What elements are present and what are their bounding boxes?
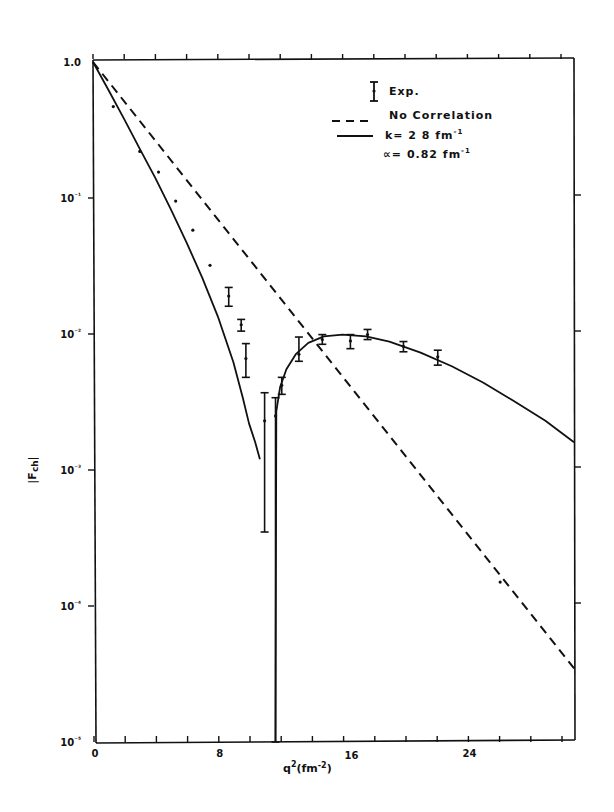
data-point [244, 357, 247, 360]
data-point [366, 333, 369, 336]
no-correlation-dashed-line [93, 62, 577, 671]
data-point [297, 353, 300, 356]
data-point [349, 339, 352, 342]
legend-k-label: k= 2 8 fm-1 [385, 128, 463, 142]
svg-text:q2(fm-2): q2(fm-2) [283, 760, 332, 775]
experimental-points [112, 105, 502, 742]
data-point [436, 355, 439, 358]
x-axis-title: q2(fm-2) [283, 760, 332, 775]
bottom-axis [96, 740, 575, 743]
y-tick-label: 10⁻⁵ [60, 736, 81, 748]
legend-exp-errorbar-icon [370, 82, 378, 101]
svg-text:|Fch|: |Fch| [26, 456, 40, 483]
data-point [263, 419, 266, 422]
data-point [240, 323, 243, 326]
data-point [208, 264, 211, 267]
y-tick-label: 10⁻⁴ [60, 600, 81, 612]
y-axis-title: |Fch| [26, 456, 40, 483]
data-point [280, 384, 283, 387]
x-tick-label: 16 [345, 750, 359, 761]
data-point [402, 345, 405, 348]
data-point [174, 199, 177, 202]
data-point [112, 105, 115, 108]
data-point [157, 171, 160, 174]
data-point [321, 338, 324, 341]
legend-alpha-label: ∝= 0.82 fm-1 [383, 147, 471, 161]
legend-no-correlation-label: No Correlation [389, 109, 493, 122]
data-point [274, 414, 277, 417]
x-tick-label: 0 [92, 748, 99, 759]
x-tick-label: 24 [462, 748, 476, 759]
chart: 1.010⁻¹10⁻²10⁻³10⁻⁴10⁻⁵081624 |Fch| q2(f… [0, 0, 614, 812]
y-tick-label: 10⁻² [60, 328, 81, 340]
y-tick-label: 10⁻¹ [60, 192, 81, 204]
axis-tick-labels: 1.010⁻¹10⁻²10⁻³10⁻⁴10⁻⁵081624 [60, 57, 476, 761]
data-point [138, 150, 141, 153]
left-axis [93, 60, 96, 743]
y-tick-label: 10⁻³ [60, 464, 81, 476]
data-point [499, 580, 502, 583]
x-tick-label: 8 [216, 748, 223, 759]
correlated-solid-curve [93, 62, 574, 742]
data-point [227, 294, 230, 297]
top-axis [93, 58, 574, 60]
legend: Exp. No Correlation k= 2 8 fm-1 ∝= 0.82 … [332, 82, 493, 161]
plot-frame [93, 58, 575, 743]
y-tick-label: 1.0 [63, 57, 81, 68]
right-axis [574, 58, 575, 740]
legend-exp-label: Exp. [389, 85, 420, 98]
data-point [191, 229, 194, 232]
